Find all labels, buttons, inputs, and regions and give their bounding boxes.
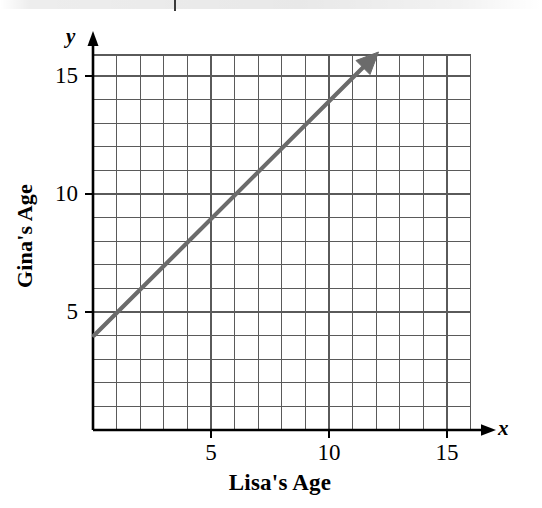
- y-tick-label-5: 5: [34, 300, 78, 323]
- axis-lines: [93, 40, 487, 430]
- y-tick-label-10: 10: [34, 182, 78, 205]
- grid-lines: [93, 55, 471, 430]
- y-axis-symbol: y: [66, 26, 75, 47]
- coordinate-graph-figure: y x 15 10 5 5 10 15 Gina's Age Lisa's Ag…: [0, 0, 542, 508]
- y-axis-title: Gina's Age: [12, 156, 38, 316]
- x-axis-title: Lisa's Age: [175, 470, 385, 496]
- graph-canvas: [0, 0, 542, 508]
- x-tick-label-10: 10: [307, 441, 351, 464]
- y-tick-label-15: 15: [34, 64, 78, 87]
- x-tick-label-15: 15: [425, 441, 469, 464]
- x-axis-arrowhead: [481, 424, 496, 436]
- y-axis-arrowhead: [88, 31, 99, 46]
- tick-marks: [85, 76, 447, 438]
- x-tick-label-5: 5: [189, 441, 233, 464]
- x-axis-symbol: x: [498, 418, 509, 439]
